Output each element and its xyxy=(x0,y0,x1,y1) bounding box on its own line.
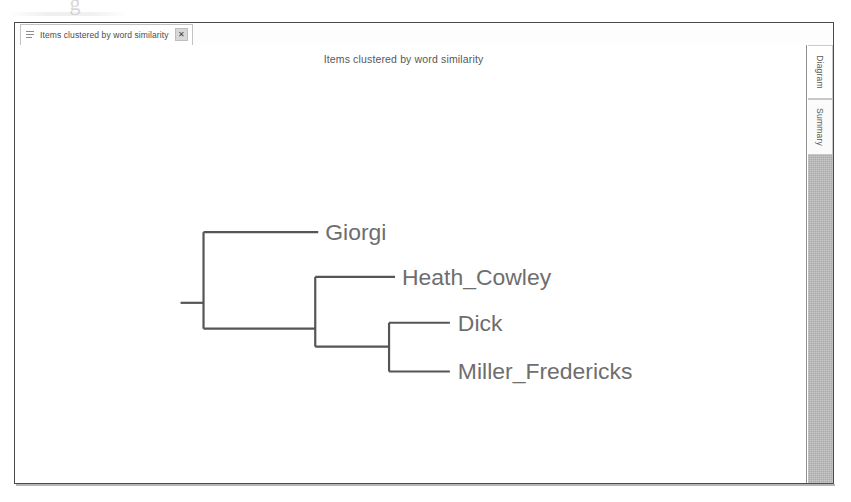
side-tab-summary-label: Summary xyxy=(815,108,825,146)
leaf-label-heath-cowley: Heath_Cowley xyxy=(402,264,552,290)
side-tab-rail: Diagram Summary xyxy=(806,45,833,483)
scan-smudge xyxy=(8,12,128,16)
side-tab-diagram-label: Diagram xyxy=(815,55,825,89)
side-tab-diagram[interactable]: Diagram xyxy=(808,45,833,99)
side-tab-summary[interactable]: Summary xyxy=(808,99,833,155)
leaf-label-dick: Dick xyxy=(458,310,503,336)
close-icon[interactable]: ✕ xyxy=(175,28,188,41)
plot-canvas: Items clustered by word similarity xyxy=(15,45,806,483)
dendrogram-chart: Giorgi Heath_Cowley Dick Miller_Frederic… xyxy=(15,45,806,483)
leaf-label-giorgi: Giorgi xyxy=(325,219,386,245)
application-window: Items clustered by word similarity ✕ Ite… xyxy=(14,22,834,484)
document-tab-label: Items clustered by word similarity xyxy=(40,30,169,40)
tab-strip: Items clustered by word similarity ✕ xyxy=(15,23,833,46)
side-rail-filler xyxy=(808,155,833,483)
scan-artifact-glyph: g xyxy=(62,0,88,12)
document-tab-items-clustered[interactable]: Items clustered by word similarity ✕ xyxy=(20,24,193,45)
leaf-label-miller-fredericks: Miller_Fredericks xyxy=(458,358,633,384)
document-icon xyxy=(26,30,34,40)
